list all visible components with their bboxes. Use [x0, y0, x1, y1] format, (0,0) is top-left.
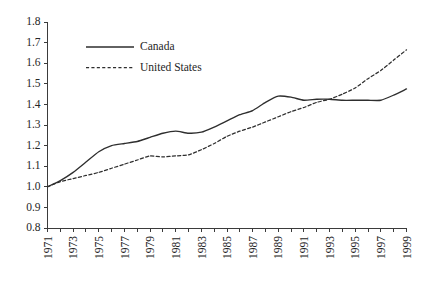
x-tick-label: 1997 — [375, 236, 387, 259]
x-tick-label: 1991 — [298, 236, 310, 259]
y-tick-label: 1.7 — [26, 36, 41, 48]
x-tick-label: 1975 — [93, 236, 105, 259]
x-tick-label: 1993 — [324, 236, 336, 259]
y-tick-label: 1.1 — [26, 159, 41, 171]
x-tick-label: 1985 — [221, 236, 233, 259]
legend-label-united-states: United States — [140, 61, 202, 73]
chart-legend: CanadaUnited States — [86, 40, 202, 73]
y-tick-label: 0.9 — [26, 201, 41, 213]
x-tick-label: 1989 — [272, 236, 284, 259]
series-lines — [48, 50, 407, 187]
y-tick-label: 1.3 — [26, 118, 41, 130]
x-tick-label: 1977 — [119, 236, 131, 259]
y-tick-label: 1.5 — [26, 77, 41, 89]
y-tick-label: 1.8 — [26, 15, 41, 27]
legend-label-canada: Canada — [140, 40, 174, 52]
chart-canvas: 0.80.91.01.11.21.31.41.51.61.71.8 197119… — [0, 0, 441, 282]
y-tick-label: 1.6 — [26, 56, 41, 68]
y-tick-label: 1.2 — [26, 139, 41, 151]
x-tick-label: 1971 — [42, 236, 54, 259]
x-tick-label: 1999 — [401, 236, 413, 259]
x-tick-label: 1995 — [349, 236, 361, 259]
x-axis: 1971197319751977197919811983198519871989… — [42, 228, 413, 259]
x-tick-label: 1973 — [67, 236, 79, 259]
x-tick-label: 1987 — [247, 236, 259, 259]
x-tick-label: 1981 — [170, 236, 182, 259]
y-tick-label: 1.4 — [26, 98, 41, 110]
x-tick-label: 1979 — [144, 236, 156, 259]
y-tick-label: 0.8 — [26, 221, 41, 233]
y-tick-label: 1.0 — [26, 180, 41, 192]
y-axis: 0.80.91.01.11.21.31.41.51.61.71.8 — [26, 15, 47, 233]
line-chart: 0.80.91.01.11.21.31.41.51.61.71.8 197119… — [0, 0, 441, 282]
x-tick-label: 1983 — [196, 236, 208, 259]
series-line-united-states — [48, 50, 407, 187]
